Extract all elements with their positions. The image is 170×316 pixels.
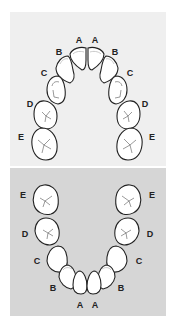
- upper-label-right-d: D: [142, 99, 149, 109]
- upper-right-canine: [109, 76, 127, 104]
- upper-label-right-b: B: [112, 47, 119, 57]
- upper-right-first-molar: [117, 101, 140, 129]
- upper-label-right-c: C: [127, 68, 134, 78]
- upper-label-left-e: E: [18, 132, 24, 142]
- lower-right-second-molar: [116, 185, 141, 215]
- upper-label-left-b: B: [56, 47, 63, 57]
- lower-arch-panel: [10, 168, 166, 316]
- lower-label-left-e: E: [20, 190, 26, 200]
- lower-left-second-molar: [33, 185, 58, 215]
- lower-label-right-a: A: [92, 300, 99, 310]
- lower-label-right-c: C: [136, 256, 143, 266]
- upper-label-left-a: A: [76, 35, 83, 45]
- upper-left-first-molar: [34, 101, 57, 129]
- upper-label-left-d: D: [27, 99, 34, 109]
- lower-label-left-d: D: [22, 229, 29, 239]
- lower-label-left-c: C: [34, 256, 41, 266]
- lower-label-left-a: A: [77, 300, 84, 310]
- lower-label-left-b: B: [50, 283, 57, 293]
- lower-label-right-b: B: [118, 283, 125, 293]
- upper-label-left-c: C: [41, 68, 48, 78]
- upper-label-right-a: A: [92, 35, 99, 45]
- upper-label-right-e: E: [149, 132, 155, 142]
- lower-label-right-d: D: [147, 229, 154, 239]
- lower-label-right-e: E: [149, 190, 155, 200]
- upper-left-canine: [47, 76, 65, 104]
- primary-dentition-diagram: A A B B C C D D E E E E D: [0, 0, 170, 316]
